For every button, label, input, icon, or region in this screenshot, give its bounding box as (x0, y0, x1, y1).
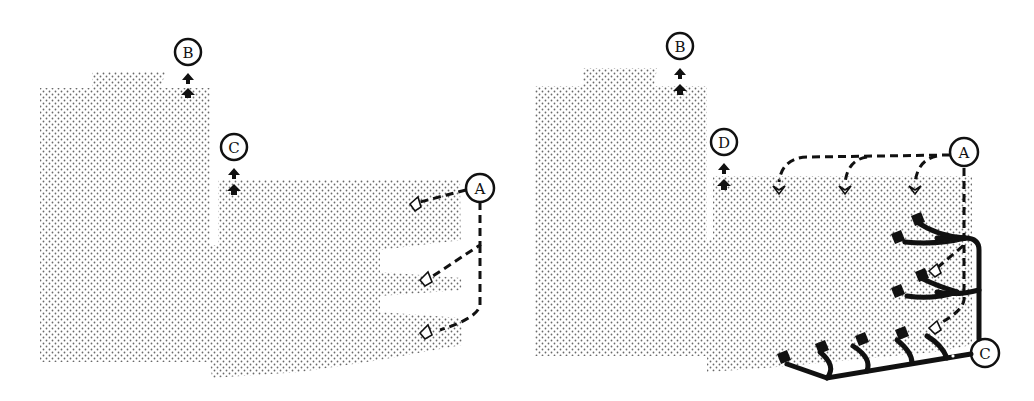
stippled-region (535, 68, 972, 372)
label-d: D (711, 129, 737, 155)
label-a: A (466, 174, 494, 202)
diagram-panel-right: B D A (517, 0, 1034, 401)
right-diagram-svg: B D A (517, 0, 1034, 401)
label-b-text: B (674, 38, 685, 56)
label-c: C (221, 134, 247, 160)
label-a-text: A (958, 144, 970, 162)
diagram-panel-left: B C A (0, 0, 517, 401)
label-d-text: D (718, 134, 730, 152)
up-arrow-icon (181, 73, 195, 98)
label-a-text: A (474, 180, 486, 198)
label-c-text: C (228, 139, 239, 157)
label-b: B (667, 33, 693, 59)
label-c: C (971, 339, 999, 367)
left-diagram-svg: B C A (0, 0, 517, 401)
up-arrow-icon (673, 68, 687, 95)
label-a: A (950, 138, 978, 166)
junction-dot (951, 354, 954, 357)
stippled-region (40, 72, 462, 378)
label-b: B (175, 39, 201, 65)
label-c-text: C (979, 345, 990, 363)
label-b-text: B (182, 44, 193, 62)
